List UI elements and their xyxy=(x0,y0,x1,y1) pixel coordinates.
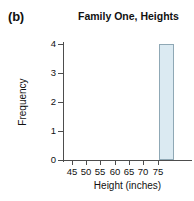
y-tick-label: 1 xyxy=(42,126,56,136)
plot-area xyxy=(63,44,192,160)
y-tick-label: 3 xyxy=(42,68,56,78)
y-tick-label: 2 xyxy=(42,97,56,107)
x-axis-tick xyxy=(158,160,159,165)
x-axis-tick xyxy=(100,160,101,165)
chart-title: Family One, Heights xyxy=(63,10,194,22)
x-axis-tick xyxy=(129,160,130,165)
x-axis-title: Height (inches) xyxy=(63,180,192,191)
y-tick-label: 0 xyxy=(42,155,56,165)
x-axis-spine xyxy=(63,160,192,161)
y-tick-label: 4 xyxy=(42,39,56,49)
x-axis-tick xyxy=(143,160,144,165)
x-axis-tick xyxy=(72,160,73,165)
x-axis-tick xyxy=(86,160,87,165)
y-axis-title: Frequency xyxy=(17,78,28,125)
y-axis-tick-labels: 4 3 2 1 0 xyxy=(38,0,56,201)
figure: (b) Family One, Heights 4 3 2 1 0 45 50 … xyxy=(0,0,194,201)
panel-label: (b) xyxy=(8,9,24,24)
x-tick-label: 75 xyxy=(148,167,168,177)
histogram-bar xyxy=(159,44,174,160)
y-axis-tick xyxy=(58,160,63,161)
x-axis-tick xyxy=(115,160,116,165)
